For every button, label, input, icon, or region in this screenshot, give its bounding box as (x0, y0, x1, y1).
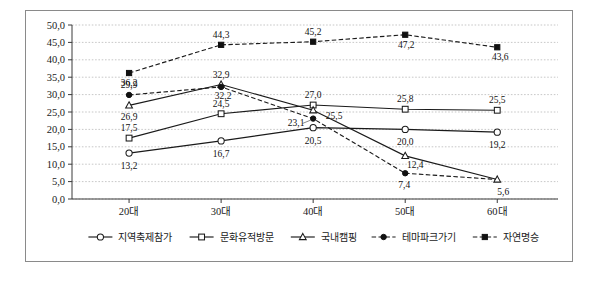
data-point-marker (126, 150, 132, 156)
y-axis-tick-label: 25,0 (47, 107, 65, 118)
legend-marker (199, 234, 205, 240)
data-point-marker (126, 70, 131, 75)
data-point-label: 17,5 (121, 123, 138, 133)
data-point-marker (311, 39, 316, 44)
line-chart: 0,05,010,015,020,025,030,035,040,045,050… (26, 11, 572, 261)
data-point-label: 32,2 (215, 91, 232, 101)
data-point-marker (126, 92, 131, 97)
chart-screenshot: · · · · · · · · ·· · ·· ·· ·· · · ·· ···… (0, 0, 592, 283)
data-point-marker (310, 116, 315, 121)
data-point-label: 25,5 (489, 95, 506, 105)
data-point-marker (402, 152, 409, 158)
data-point-marker (495, 45, 500, 50)
data-point-label: 20,0 (397, 137, 414, 147)
data-point-label: 7,4 (398, 180, 410, 190)
data-point-marker (494, 107, 500, 113)
data-point-label: 45,2 (305, 27, 322, 37)
legend-label: 문화유적방문 (220, 232, 274, 243)
legend-marker (482, 234, 487, 239)
legend-item-3[interactable]: 테마파크가기 (372, 232, 456, 243)
y-axis-tick-label: 40,0 (47, 54, 65, 65)
data-point-label: 26,9 (121, 112, 138, 122)
legend-marker (97, 234, 103, 240)
data-point-marker (218, 138, 224, 144)
data-point-marker (310, 125, 316, 131)
y-axis-tick-label: 5,0 (52, 176, 65, 187)
legend-item-1[interactable]: 문화유적방문 (190, 232, 274, 243)
data-point-marker (494, 129, 500, 135)
legend-item-4[interactable]: 자연명승 (473, 232, 539, 243)
data-point-label: 25,8 (397, 94, 414, 104)
legend-marker (381, 234, 386, 239)
data-point-label: 20,5 (305, 136, 322, 146)
data-point-label: 36,2 (121, 78, 138, 88)
data-point-label: 43,6 (492, 52, 509, 62)
legend-label: 국내캠핑 (321, 232, 357, 243)
y-axis-tick-label: 35,0 (47, 72, 65, 83)
data-point-label: 19,2 (489, 140, 506, 150)
cropped-text-sliver: · · · · · · · · ·· · ·· ·· ·· · · ·· ···… (0, 0, 592, 7)
legend-item-2[interactable]: 국내캠핑 (291, 232, 357, 243)
data-point-marker (402, 126, 408, 132)
x-axis-category-label: 40대 (303, 206, 324, 217)
data-point-label: 12,4 (407, 160, 424, 170)
x-axis-category-label: 30대 (211, 206, 232, 217)
data-point-marker (218, 111, 224, 117)
data-point-label: 27,0 (305, 90, 322, 100)
data-point-marker (218, 84, 223, 89)
x-axis-category-label: 60대 (487, 206, 508, 217)
y-axis-tick-label: 30,0 (47, 89, 65, 100)
data-point-label: 47,2 (398, 40, 415, 50)
data-point-label: 25,5 (326, 111, 343, 121)
y-axis-tick-label: 20,0 (47, 124, 65, 135)
data-point-label: 44,3 (213, 30, 230, 40)
data-point-marker (126, 135, 132, 141)
data-point-label: 5,6 (497, 187, 509, 197)
legend-label: 테마파크가기 (402, 232, 456, 243)
data-point-label: 13,2 (121, 161, 138, 171)
data-point-label: 16,7 (213, 149, 230, 159)
data-point-marker (403, 171, 408, 176)
data-point-label: 23,1 (288, 118, 305, 128)
legend-item-0[interactable]: 지역축제참가 (88, 232, 172, 243)
legend-label: 지역축제참가 (118, 232, 172, 243)
x-axis-category-label: 20대 (119, 206, 139, 217)
y-axis-tick-label: 50,0 (47, 20, 65, 31)
legend-label: 자연명승 (503, 232, 539, 243)
chart-frame: 0,05,010,015,020,025,030,035,040,045,050… (25, 10, 573, 262)
y-axis-tick-label: 10,0 (47, 159, 65, 170)
y-axis-tick-label: 45,0 (47, 37, 65, 48)
data-point-marker (219, 42, 224, 47)
data-point-marker (402, 106, 408, 112)
cropped-text-fragment: · · · · · · · · ·· · ·· ·· ·· · · ·· ···… (8, 0, 258, 4)
x-axis-category-label: 50대 (395, 206, 416, 217)
y-axis-tick-label: 15,0 (47, 141, 65, 152)
y-axis-tick-label: 0,0 (52, 194, 65, 205)
data-point-marker (403, 32, 408, 37)
data-point-label: 32,9 (213, 70, 230, 80)
